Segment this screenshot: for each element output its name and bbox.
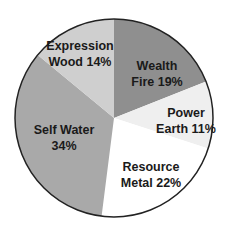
slice-label-line1: Power <box>156 105 216 121</box>
slice-label-line1: Resource <box>121 159 181 175</box>
slice-label-line2: 34% <box>34 138 95 154</box>
slice-label-self-water: Self Water34% <box>34 122 95 154</box>
slice-label-resource-metal: ResourceMetal 22% <box>121 159 181 191</box>
slice-label-line2: Metal 22% <box>121 175 181 191</box>
slice-label-line1: Wealth <box>131 58 182 74</box>
slice-label-line2: Fire 19% <box>131 74 182 90</box>
slice-label-line1: Expression <box>46 38 113 54</box>
slice-label-line2: Earth 11% <box>156 121 216 137</box>
slice-label-wealth-fire: WealthFire 19% <box>131 58 182 90</box>
slice-label-power-earth: PowerEarth 11% <box>156 105 216 137</box>
slice-label-line1: Self Water <box>34 122 95 138</box>
slice-label-expression-wood: ExpressionWood 14% <box>46 38 113 70</box>
slice-label-line2: Wood 14% <box>46 54 113 70</box>
